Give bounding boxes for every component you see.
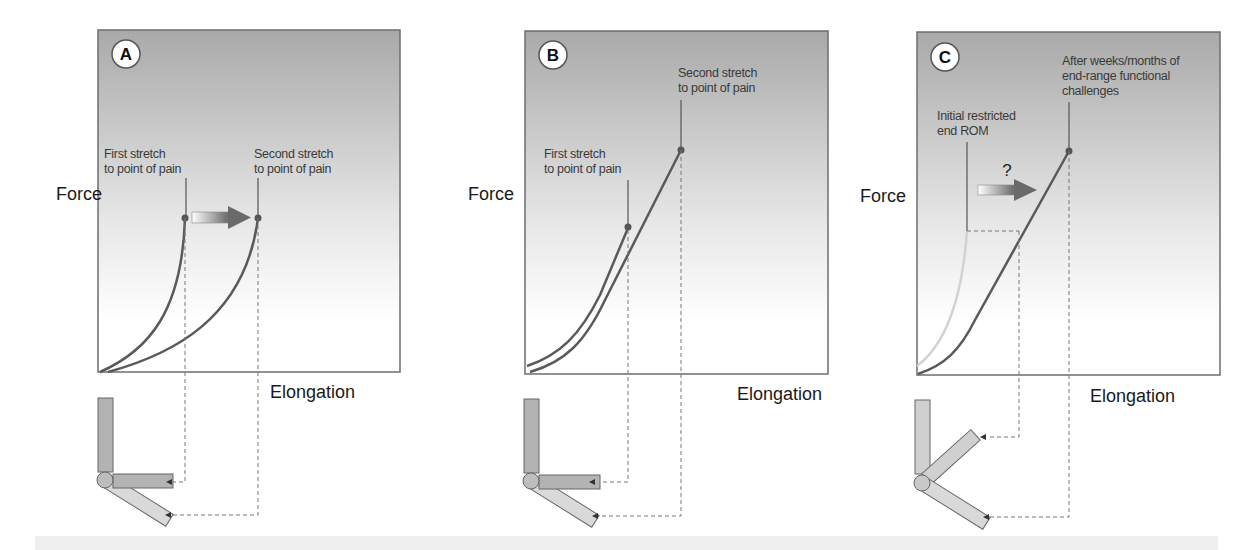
panel-badge: C xyxy=(931,43,959,71)
annotation-second-line3: challenges xyxy=(1062,84,1119,98)
panel-a: A First stretch to point of pain Second … xyxy=(56,30,400,526)
question-mark: ? xyxy=(1002,161,1011,180)
x-axis-label: Elongation xyxy=(270,382,355,402)
annotation-first-line2: to point of pain xyxy=(104,162,182,176)
x-axis-label: Elongation xyxy=(1090,386,1175,406)
svg-text:B: B xyxy=(547,46,559,65)
joint-diagram xyxy=(523,399,600,527)
panel-badge: B xyxy=(539,41,567,69)
y-axis-label: Force xyxy=(468,184,514,204)
y-axis-label: Force xyxy=(56,184,102,204)
x-axis-label: Elongation xyxy=(737,384,822,404)
annotation-second-line2: end-range functional xyxy=(1062,69,1170,83)
annotation-second-line1: Second stretch xyxy=(678,66,758,80)
annotation-first-line1: First stretch xyxy=(544,147,606,161)
annotation-second-line1: Second stretch xyxy=(254,147,334,161)
annotation-second-line1: After weeks/months of xyxy=(1062,54,1180,68)
bottom-band xyxy=(35,536,1218,550)
panel-b: B Second stretch to point of pain First … xyxy=(468,31,828,527)
panel-c: C After weeks/months of end-range functi… xyxy=(860,32,1220,529)
annotation-first-line2: to point of pain xyxy=(544,162,622,176)
annotation-first-line1: Initial restricted xyxy=(937,109,1016,123)
y-axis-label: Force xyxy=(860,186,906,206)
annotation-second-line2: to point of pain xyxy=(678,81,756,95)
joint-diagram xyxy=(97,398,173,526)
figure: A First stretch to point of pain Second … xyxy=(0,0,1254,550)
panel-badge: A xyxy=(112,40,140,68)
svg-text:C: C xyxy=(939,48,951,67)
annotation-second-line2: to point of pain xyxy=(254,162,332,176)
joint-diagram xyxy=(914,400,990,529)
annotation-first-line1: First stretch xyxy=(104,147,166,161)
annotation-first-line2: end ROM xyxy=(937,124,988,138)
svg-text:A: A xyxy=(120,45,132,64)
plot-area xyxy=(525,31,828,374)
plot-area xyxy=(98,30,400,372)
